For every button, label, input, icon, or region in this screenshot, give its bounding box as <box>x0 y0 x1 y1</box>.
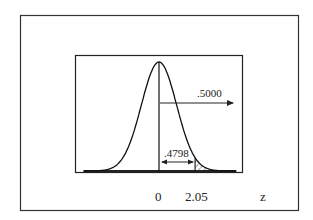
arrowhead-right-icon <box>227 100 234 106</box>
arrowhead-left-icon <box>161 160 167 165</box>
normal-curve <box>83 62 236 171</box>
tick-label-z: 2.05 <box>185 190 208 203</box>
normal-curve-figure <box>0 0 313 220</box>
between-area-label: .4798 <box>164 148 189 159</box>
axis-label-z: z <box>260 190 266 203</box>
tick-label-zero: 0 <box>155 190 162 203</box>
arrowhead-right-icon <box>188 160 194 165</box>
half-area-label: .5000 <box>197 88 222 99</box>
